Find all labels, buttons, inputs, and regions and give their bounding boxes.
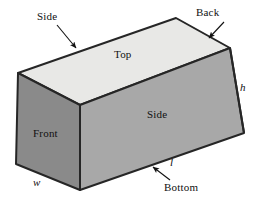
label-side-right: Side	[147, 109, 167, 120]
label-width-w: w	[33, 177, 41, 188]
box-diagram-svg	[0, 0, 258, 200]
label-side-top: Side	[37, 11, 57, 22]
side-top-leader-arrow	[57, 25, 76, 48]
label-front: Front	[33, 128, 58, 139]
label-back: Back	[196, 7, 219, 18]
label-height-h: h	[240, 82, 246, 93]
rectangular-prism-figure: Side Back Top Front Side Bottom h w l	[0, 0, 258, 200]
label-bottom: Bottom	[164, 182, 198, 193]
label-top: Top	[114, 49, 132, 60]
back-leader-arrow	[209, 22, 224, 38]
bottom-leader-arrow	[153, 167, 170, 180]
label-length-l: l	[170, 157, 173, 168]
